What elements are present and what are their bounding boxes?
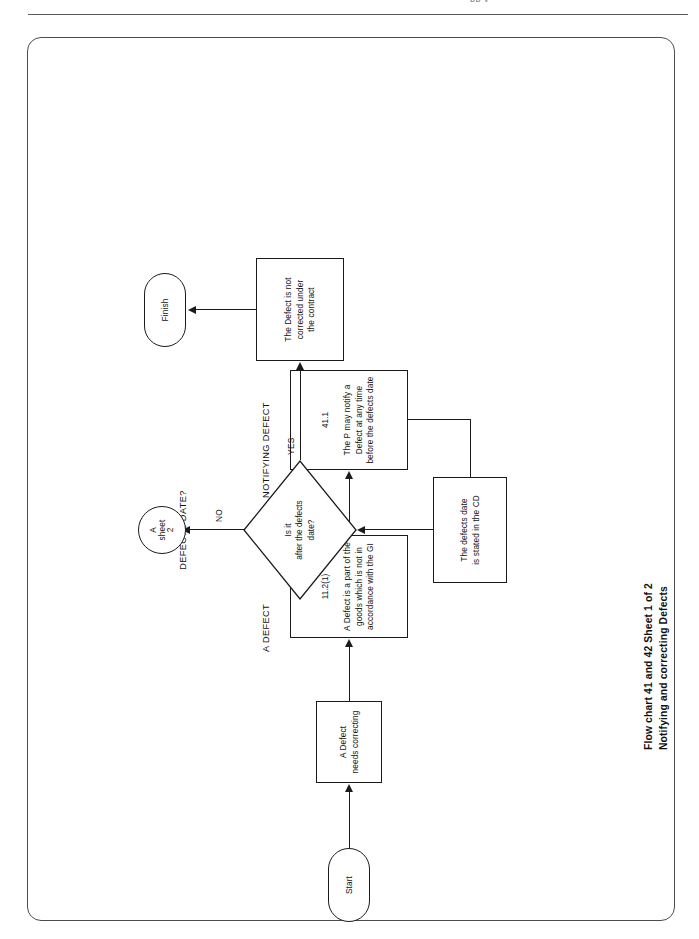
- branch-label-no: NO: [214, 509, 224, 522]
- figure-caption-line1: Flow chart 41 and 42 Sheet 1 of 2: [642, 560, 657, 750]
- arrowhead-needs-correcting-to-defect-definition: [345, 639, 353, 647]
- node-defect-needs-correcting-line2: needs correcting: [348, 709, 363, 776]
- node-connector-line3: 2: [165, 528, 176, 533]
- edge-start-to-needs-correcting: [349, 792, 350, 848]
- edge-yes-horizontal: [300, 370, 301, 460]
- edge-notify-to-defects-date: [470, 420, 471, 478]
- node-notify-defect-clause: 41.1: [320, 412, 331, 428]
- edge-notify-down: [408, 419, 471, 420]
- node-defects-date[interactable]: The defects date is stated in the CD: [433, 477, 507, 583]
- branch-label-yes-text: YES: [286, 437, 296, 455]
- node-decision-line3: date?: [306, 500, 317, 560]
- page-border-frame: Start A Defect needs correcting A DEFECT…: [27, 37, 675, 921]
- edge-not-corrected-up: [194, 309, 256, 310]
- node-defect-needs-correcting[interactable]: A Defect needs correcting: [316, 701, 382, 783]
- edge-needs-correcting-to-defect-definition: [349, 647, 350, 701]
- edge-no-branch: [188, 529, 244, 530]
- node-decision-text: Is it after the defects date?: [243, 460, 357, 600]
- node-start-label: Start: [342, 874, 357, 896]
- node-notify-defect-line3: before the defects date: [363, 374, 378, 465]
- edge-defects-date-up: [363, 529, 433, 530]
- page-header: pp y: [0, 0, 699, 22]
- figure-caption-line2: Notifying and correcting Defects: [657, 560, 672, 750]
- arrowhead-start-to-needs-correcting: [345, 784, 353, 792]
- branch-label-no-text: NO: [214, 509, 224, 522]
- node-defect-not-corrected-line3: the contract: [304, 285, 319, 334]
- node-notify-defect[interactable]: 41.1 The P may notify a Defect at any ti…: [290, 370, 408, 470]
- arrowhead-not-corrected-to-finish: [188, 307, 196, 315]
- node-connector-a-sheet-2[interactable]: A sheet 2: [138, 506, 186, 554]
- node-decision-line1: Is it: [283, 500, 294, 560]
- flowchart-canvas: Start A Defect needs correcting A DEFECT…: [28, 56, 676, 939]
- node-start[interactable]: Start: [328, 848, 370, 922]
- node-defects-date-line2: is stated in the CD: [469, 493, 484, 567]
- header-cut-text: pp y: [470, 0, 489, 2]
- node-defect-definition-line3: accordance with the GI: [363, 541, 378, 632]
- figure-caption: Flow chart 41 and 42 Sheet 1 of 2 Notify…: [642, 560, 682, 750]
- node-finish-label: Finish: [158, 297, 173, 324]
- node-decision-after-defects-date[interactable]: Is it after the defects date?: [243, 460, 357, 600]
- node-defect-not-corrected[interactable]: The Defect is not corrected under the co…: [256, 258, 344, 361]
- node-finish[interactable]: Finish: [144, 273, 186, 347]
- node-decision-line2: after the defects: [294, 500, 305, 560]
- arrowhead-defects-date-to-decision: [357, 527, 365, 535]
- group-label-a-defect-text: A DEFECT: [261, 604, 271, 652]
- arrowhead-yes-to-not-corrected: [296, 362, 304, 370]
- header-divider: [28, 14, 688, 15]
- branch-label-yes: YES: [286, 437, 296, 455]
